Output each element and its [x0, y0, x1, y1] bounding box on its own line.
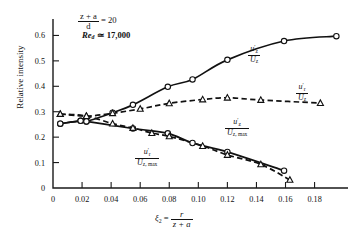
ur-uz-numerator: u′r — [296, 83, 308, 93]
x-axis-numerator: r — [171, 210, 193, 219]
x-axis-title: ξ2 = r z + a — [155, 210, 193, 229]
y-tick-label: 0.3 — [35, 108, 45, 117]
series-curve-uz_prime_over_Uz_max — [60, 121, 284, 171]
uz-uz-numerator: u′z — [248, 45, 260, 55]
y-tick-label: 0.4 — [35, 82, 45, 91]
data-point-ur_prime_over_Uz_max — [83, 113, 89, 119]
figure-container: Relative intensity z + a d = 20 Red ≃ 17… — [0, 0, 360, 243]
y-tick-label: 0.2 — [35, 133, 45, 142]
series-curve-ur_prime_over_Uz_max — [60, 114, 290, 180]
annotation-length-ratio: z + a d = 20 — [78, 12, 117, 31]
xi-subscript: 2 — [159, 218, 162, 224]
x-tick-label: 0.06 — [133, 195, 147, 204]
x-tick-label: 0.12 — [220, 195, 234, 204]
x-axis-fraction: r z + a — [171, 210, 193, 229]
curve-label-uz-over-Uzmax: u′z Uz, max — [225, 118, 249, 138]
y-axis-title: Relative intensity — [15, 27, 25, 127]
ur-uzmax-denominator: Uz, max — [135, 158, 159, 168]
data-point-uz_prime_over_Uz — [225, 57, 230, 62]
y-tick-label: 0.5 — [35, 57, 45, 66]
uz-uz-fraction: u′z Uz — [248, 45, 260, 65]
curve-label-ur-over-Uzmax: u′r Uz, max — [135, 148, 159, 168]
series-curve-uz_prime_over_Uz — [60, 36, 336, 123]
reynolds-symbol: Re — [82, 30, 92, 40]
reynolds-value: ≃ 17,000 — [97, 30, 131, 40]
uz-uzmax-denominator: Uz, max — [225, 128, 249, 138]
x-tick-label: 0.18 — [307, 195, 321, 204]
axis-lines — [53, 19, 348, 188]
annotation-reynolds: Red ≃ 17,000 — [82, 30, 130, 40]
data-point-ur_prime_over_Uz — [317, 100, 323, 106]
x-axis-denominator: z + a — [171, 219, 193, 229]
data-point-uz_prime_over_Uz — [334, 34, 339, 39]
data-point-uz_prime_over_Uz — [281, 38, 286, 43]
data-point-uz_prime_over_Uz — [130, 102, 135, 107]
data-point-ur_prime_over_Uz — [166, 100, 172, 106]
x-tick-label: 0.02 — [75, 195, 89, 204]
ur-uz-fraction: u′r Uz — [296, 83, 308, 103]
plot-area: 00.10.20.30.40.50.600.020.040.060.080.10… — [0, 0, 360, 243]
data-point-uz_prime_over_Uz_max — [84, 119, 89, 124]
y-tick-label: 0.1 — [35, 159, 45, 168]
x-tick-label: 0.14 — [249, 195, 263, 204]
length-ratio-numerator: z + a — [78, 12, 99, 21]
uz-uzmax-fraction: u′z Uz, max — [225, 118, 249, 138]
ur-uzmax-numerator: u′r — [135, 148, 159, 158]
curve-label-ur-over-Uz: u′r Uz — [296, 83, 308, 103]
x-tick-label: 0.04 — [104, 195, 118, 204]
data-point-ur_prime_over_Uz — [200, 96, 206, 102]
x-tick-label: 0.16 — [278, 195, 292, 204]
x-axis-equals: = — [164, 213, 169, 223]
data-point-ur_prime_over_Uz_max — [287, 177, 293, 183]
reynolds-subscript: d — [92, 34, 95, 40]
data-point-uz_prime_over_Uz — [190, 77, 195, 82]
data-point-ur_prime_over_Uz — [224, 95, 230, 101]
data-point-ur_prime_over_Uz — [137, 106, 143, 112]
data-point-ur_prime_over_Uz_max — [200, 143, 206, 149]
length-ratio-equals: = 20 — [101, 15, 117, 25]
uz-uzmax-numerator: u′z — [225, 118, 249, 128]
curve-label-uz-over-Uz: u′z Uz — [248, 45, 260, 65]
length-ratio-fraction: z + a d — [78, 12, 99, 31]
x-tick-label: 0 — [51, 195, 55, 204]
series-curve-ur_prime_over_Uz — [60, 98, 320, 116]
ur-uz-denominator: Uz — [296, 93, 308, 103]
data-point-ur_prime_over_Uz_max — [130, 125, 136, 131]
ur-uzmax-fraction: u′r Uz, max — [135, 148, 159, 168]
x-tick-label: 0.08 — [162, 195, 176, 204]
data-point-ur_prime_over_Uz_max — [110, 120, 116, 126]
y-tick-label: 0.6 — [35, 31, 45, 40]
data-point-uz_prime_over_Uz_max — [58, 121, 63, 126]
x-tick-label: 0.10 — [191, 195, 205, 204]
data-point-uz_prime_over_Uz_max — [281, 168, 286, 173]
data-point-uz_prime_over_Uz_max — [190, 140, 195, 145]
data-point-ur_prime_over_Uz — [258, 97, 264, 103]
data-point-uz_prime_over_Uz — [165, 84, 170, 89]
y-tick-label: 0 — [41, 184, 45, 193]
uz-uz-denominator: Uz — [248, 55, 260, 65]
